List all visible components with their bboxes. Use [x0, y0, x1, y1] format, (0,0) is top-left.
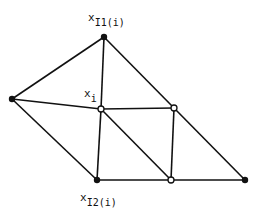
edge-left-bottom_left — [12, 99, 97, 180]
node-left-filled — [9, 96, 15, 102]
edge-left-center — [12, 99, 101, 109]
node-bottom_mid-open — [168, 177, 174, 183]
edge-center-right_mid — [101, 108, 174, 109]
node-top-filled — [101, 34, 107, 40]
node-center-open — [98, 106, 104, 112]
mesh-diagram — [0, 0, 253, 214]
edge-top-center — [101, 37, 104, 109]
edge-top-right_mid — [104, 37, 174, 108]
label-x-I1: xI1(i) — [88, 8, 125, 24]
edge-center-bottom_left — [97, 109, 101, 180]
node-right_mid-open — [171, 105, 177, 111]
edge-center-bottom_mid — [101, 109, 171, 180]
mesh-edges — [12, 37, 245, 180]
edge-right_mid-bottom_right — [174, 108, 245, 180]
label-x-i: xi — [84, 84, 97, 100]
label-x-I2: xI2(i) — [80, 188, 117, 204]
edge-right_mid-bottom_mid — [171, 108, 174, 180]
node-bottom_left-filled — [94, 177, 100, 183]
node-bottom_right-filled — [242, 177, 248, 183]
